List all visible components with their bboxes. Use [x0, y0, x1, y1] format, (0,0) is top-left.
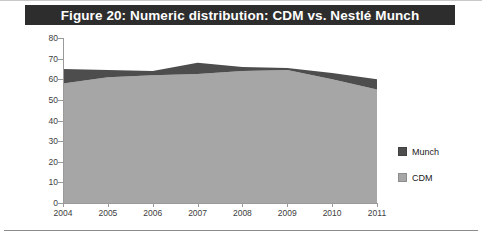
x-tick-label: 2009: [278, 208, 297, 218]
x-axis-line: [63, 203, 378, 204]
y-tick-label: 50: [30, 95, 58, 105]
legend-swatch-icon: [398, 147, 407, 156]
x-tick-mark: [63, 203, 64, 207]
chart-legend: Munch CDM: [398, 146, 478, 198]
chart-container: 80 70 60 50 40 30 20 10 0: [0, 28, 482, 228]
bottom-divider: [4, 230, 478, 231]
x-tick-mark: [153, 203, 154, 207]
y-axis-line: [63, 38, 64, 204]
x-tick-mark: [332, 203, 333, 207]
y-axis-labels: 80 70 60 50 40 30 20 10 0: [30, 38, 58, 203]
y-tick-label: 30: [30, 136, 58, 146]
x-axis-labels: 2004 2005 2006 2007 2008 2009 2010 2011: [63, 208, 377, 222]
y-tick-label: 60: [30, 74, 58, 84]
figure-page: Figure 20: Numeric distribution: CDM vs.…: [0, 0, 482, 237]
x-tick-mark: [198, 203, 199, 207]
x-tick-mark: [377, 203, 378, 207]
x-tick-label: 2008: [233, 208, 252, 218]
y-tick-label: 80: [30, 33, 58, 43]
stacked-area-svg: [63, 38, 377, 203]
area-series-cdm: [63, 70, 377, 203]
x-tick-label: 2004: [54, 208, 73, 218]
x-tick-mark: [108, 203, 109, 207]
y-tick-label: 10: [30, 177, 58, 187]
legend-item-munch: Munch: [398, 146, 478, 157]
page-title: Figure 20: Numeric distribution: CDM vs.…: [61, 8, 420, 23]
y-tick-label: 0: [30, 198, 58, 208]
y-tick-label: 40: [30, 116, 58, 126]
y-tick-label: 70: [30, 54, 58, 64]
legend-swatch-icon: [398, 173, 407, 182]
legend-label: CDM: [412, 173, 433, 183]
x-tick-mark: [287, 203, 288, 207]
legend-label: Munch: [412, 147, 439, 157]
legend-item-cdm: CDM: [398, 172, 478, 183]
top-divider: [0, 0, 482, 1]
x-tick-label: 2010: [323, 208, 342, 218]
figure-title-bar: Figure 20: Numeric distribution: CDM vs.…: [25, 5, 455, 25]
x-tick-label: 2005: [98, 208, 117, 218]
x-tick-label: 2007: [188, 208, 207, 218]
x-tick-mark: [242, 203, 243, 207]
x-tick-label: 2006: [143, 208, 162, 218]
x-tick-label: 2011: [368, 208, 386, 218]
y-tick-label: 20: [30, 157, 58, 167]
plot-area: [63, 38, 377, 203]
